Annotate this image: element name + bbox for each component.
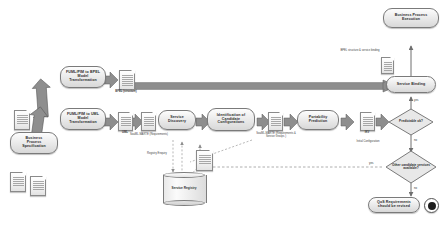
decision-predictable-ok[interactable]: Predictable ok? — [388, 108, 434, 136]
ann-bpelbind-l1: BPEL — [340, 49, 347, 52]
document-icon-requirements — [268, 112, 283, 131]
cap-ikv-l1: IKV — [365, 131, 369, 134]
cylinder-top — [163, 172, 205, 178]
doc-lines — [363, 117, 373, 128]
ident-line3: Configurations — [217, 121, 245, 125]
bpexec-line2: Execution — [395, 18, 428, 22]
caption-initial-configuration: Initial Configuration — [348, 140, 388, 143]
arrow-bps-to-bpel-transformation — [31, 78, 53, 117]
ann-bpelbind-l3: service binding — [362, 49, 380, 52]
doc-lines — [122, 75, 133, 87]
caption-bpel-structure: BPEL (structure) — [111, 90, 141, 93]
arrow-umltr-to-umldoc — [104, 114, 118, 130]
registry-line2: Registry — [184, 186, 197, 190]
document-icon-registry-artifact — [196, 150, 213, 171]
other-line3: available? — [403, 166, 418, 170]
ann-initcfg-l2: Configuration — [364, 140, 380, 143]
flow-label-other-yes: yes — [369, 161, 373, 165]
caption-soaml-marte-service-groups: SoaML-MARTE (Requirements & Service Grou… — [252, 132, 300, 138]
predictable-line2: ok? — [417, 119, 423, 123]
document-icon-soaml — [141, 112, 156, 131]
qos-line2: should be revised — [377, 205, 411, 209]
activity-business-process-specification[interactable]: Business Process Specification — [10, 132, 58, 154]
document-icon-binding-artifact — [381, 57, 394, 74]
doc-lines — [33, 181, 44, 193]
binding-line1: Service Binding — [397, 83, 426, 87]
arrow-bpel-to-binding — [123, 80, 397, 92]
document-icon-spec-top — [14, 110, 30, 130]
registry-line1: Service — [172, 186, 183, 190]
flow-label-predictable-no: no — [414, 138, 417, 142]
annotation-registry-enquiry: Registry Enquiry — [147, 152, 173, 155]
activity-portability-prediction[interactable]: Portability Prediction — [297, 110, 339, 130]
caption-ikv: IKV — [354, 131, 380, 134]
bps-line3: Specification — [22, 145, 46, 149]
activity-business-process-execution[interactable]: Business Process Execution — [383, 8, 439, 28]
activity-service-binding[interactable]: Service Binding — [386, 76, 436, 93]
cap-bpel-l2: (structure) — [123, 90, 136, 93]
document-icon-spec-bottom-left — [10, 172, 26, 192]
ann-regenq-l2: Enquiry — [158, 152, 167, 155]
ann-bpelbind-l2: structure & — [348, 49, 361, 52]
datastore-label: Service Registry — [163, 187, 205, 191]
end-node — [424, 198, 439, 213]
cap-soaml-l2: (Requirements) — [150, 133, 169, 136]
activity-identification-of-candidate-configurations[interactable]: Identification of Candidate Configuratio… — [207, 108, 255, 131]
decision-other-candidate-services-available[interactable]: Other candidate services available? — [385, 150, 437, 184]
doc-lines — [121, 117, 131, 128]
diagram-canvas: Business Process Specification FUML/PIM … — [0, 0, 448, 227]
ann-regenq-l1: Registry — [147, 152, 157, 155]
document-icon-bpel — [119, 70, 135, 90]
caption-soaml-marte-requirements: SoaML-MARTE (Requirements) — [128, 133, 170, 136]
activity-qos-requirements-should-be-revised[interactable]: QoS Requirements should be revised — [368, 197, 420, 213]
discovery-line2: Discovery — [168, 120, 186, 124]
document-icon-uml — [118, 112, 133, 131]
other-line1: Other — [392, 163, 401, 167]
ann-soamlmarte-l3: Service Groups ) — [266, 135, 286, 138]
document-icon-ikv — [360, 112, 375, 131]
activity-fuml-pim-to-uml-transformation[interactable]: FUML/PIM to UML Model Transformation — [60, 108, 106, 130]
flow-label-predictable-yes: yes — [414, 98, 418, 102]
ann-initcfg-l1: Initial — [356, 140, 362, 143]
doc-lines — [199, 155, 211, 168]
document-icon-spec-bottom-right — [30, 176, 46, 196]
datastore-service-registry[interactable]: Service Registry — [163, 172, 205, 206]
activity-fuml-pim-to-bpel-transformation[interactable]: FUML/PIM to BPEL Model Transformation — [60, 66, 106, 88]
doc-lines — [13, 177, 24, 189]
cylinder-bottom — [163, 200, 205, 206]
flow-label-other-no: no — [414, 186, 417, 190]
umltr-line3: Transformation — [67, 121, 99, 125]
bpeltr-line3: Transformation — [66, 79, 100, 83]
doc-lines — [384, 62, 392, 71]
activity-service-discovery[interactable]: Service Discovery — [158, 110, 196, 130]
arrow-portability-to-ikvdoc — [341, 114, 354, 130]
arrow-bpeltr-to-bpeldoc — [104, 72, 118, 88]
annotation-bpel-structure-service-binding: BPEL structure & service binding — [338, 49, 382, 52]
doc-lines — [144, 117, 154, 128]
doc-lines — [17, 115, 28, 127]
cap-soaml-l1: SoaML-MARTE — [130, 133, 149, 136]
port-line2: Prediction — [309, 120, 328, 124]
arrow-other-yes-to-discovery — [200, 145, 382, 167]
predictable-line1: Predictable — [399, 119, 416, 123]
doc-lines — [271, 117, 281, 128]
arrow-reqdoc-to-portability — [284, 114, 298, 130]
cap-bpel-l1: BPEL — [115, 90, 122, 93]
